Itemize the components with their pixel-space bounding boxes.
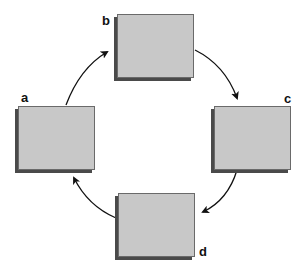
node-b-label: b — [102, 14, 110, 27]
arrow-a-to-b — [66, 52, 107, 105]
arrow-d-to-a — [74, 178, 116, 218]
node-d-label: d — [199, 245, 207, 258]
arrow-b-to-c — [195, 50, 237, 98]
node-a-box — [18, 106, 95, 170]
node-c-label: c — [284, 92, 291, 105]
node-d-box — [118, 193, 195, 257]
arrow-c-to-d — [203, 170, 237, 212]
node-b-box — [117, 14, 194, 78]
node-c-box — [214, 106, 291, 170]
node-a-label: a — [21, 91, 28, 104]
